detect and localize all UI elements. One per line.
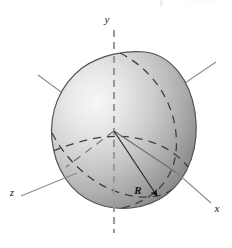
y-axis-label: y xyxy=(104,13,110,25)
z-axis-label: z xyxy=(9,186,15,198)
figure-container: y x z R xyxy=(0,0,232,248)
scan-artifact xyxy=(160,0,216,6)
x-axis xyxy=(176,172,211,203)
z-axis xyxy=(21,173,77,196)
coordinate-surface-diagram: y x z R xyxy=(0,0,232,248)
ovoid-surface xyxy=(52,52,197,209)
radius-label: R xyxy=(133,184,141,196)
x-axis-label: x xyxy=(214,202,220,214)
